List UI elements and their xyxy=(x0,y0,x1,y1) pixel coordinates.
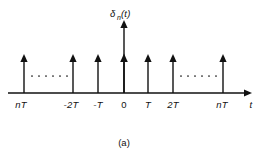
impulse-arrowhead xyxy=(120,54,128,63)
tick-label-2T: 2T xyxy=(166,99,180,110)
y-axis-arrowhead xyxy=(120,20,127,28)
x-tick-labels: nT -2T -T 0 T 2T nT t xyxy=(15,99,252,110)
impulse-train-plot: δ n (t) nT -2T -T 0 T 2T nT t (a) xyxy=(0,0,267,158)
impulse-arrowhead xyxy=(94,54,101,62)
impulse-nT-right xyxy=(219,54,226,93)
x-axis xyxy=(8,89,252,96)
tick-label-nT-right: nT xyxy=(216,99,229,110)
impulse-train-figure: δ n (t) nT -2T -T 0 T 2T nT t (a) xyxy=(0,0,267,158)
tick-label-minus-T: -T xyxy=(93,99,103,110)
x-axis-label-t: t xyxy=(250,99,253,110)
impulse-arrowhead xyxy=(144,54,151,62)
tick-label-nT-left: nT xyxy=(15,99,28,110)
left-ellipsis xyxy=(31,75,68,77)
impulse-arrowhead xyxy=(219,54,226,62)
impulse-minus-2T xyxy=(69,54,76,93)
tick-label-T: T xyxy=(145,99,152,110)
impulse-arrowhead xyxy=(169,54,176,62)
figure-caption: (a) xyxy=(118,137,130,148)
impulse-arrowhead xyxy=(69,54,76,62)
y-axis-label-delta: δ xyxy=(110,8,116,19)
y-axis-label: δ n (t) xyxy=(110,8,131,21)
impulse-nT-left xyxy=(20,54,27,93)
impulse-T xyxy=(144,54,151,93)
y-axis-label-argument: (t) xyxy=(121,8,131,19)
tick-label-minus-2T: -2T xyxy=(63,99,79,110)
right-ellipsis xyxy=(180,75,217,77)
tick-label-zero: 0 xyxy=(121,99,127,110)
impulse-2T xyxy=(169,54,176,93)
impulse-zero xyxy=(120,54,128,94)
impulse-arrowhead xyxy=(20,54,27,62)
impulse-minus-T xyxy=(94,54,101,93)
x-axis-arrowhead xyxy=(244,89,252,96)
